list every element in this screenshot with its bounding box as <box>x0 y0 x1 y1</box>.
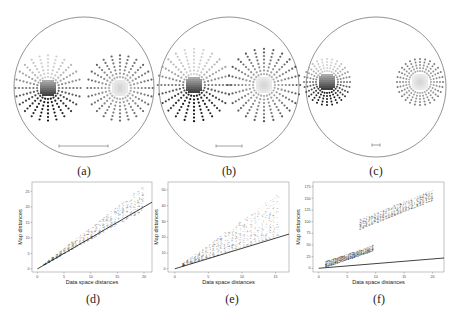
cluster-1 <box>14 54 81 121</box>
svg-text:+: + <box>246 229 248 232</box>
svg-text:+: + <box>86 233 88 236</box>
svg-text:+: + <box>105 215 107 218</box>
y-tick-label: 5 <box>28 252 30 256</box>
svg-text:+: + <box>366 248 368 251</box>
svg-text:+: + <box>336 257 338 260</box>
svg-text:+: + <box>216 245 218 248</box>
y-tick-label: 75 <box>307 231 311 235</box>
svg-text:+: + <box>138 200 140 203</box>
svg-text:+: + <box>273 221 275 224</box>
caption-b: (b) <box>209 164 249 179</box>
x-tick-label: 15 <box>402 275 406 279</box>
caption-c: (c) <box>356 164 396 179</box>
svg-text:+: + <box>138 192 140 195</box>
svg-text:+: + <box>411 207 413 210</box>
caption-e: (e) <box>212 292 252 307</box>
svg-text:+: + <box>250 220 252 223</box>
y-tick-label: 20 <box>26 205 30 209</box>
svg-text:+: + <box>130 204 132 207</box>
svg-text:+: + <box>416 205 418 208</box>
svg-text:+: + <box>276 211 278 214</box>
svg-text:+: + <box>265 234 267 237</box>
scatter-plot-f: ++++++++++++++++++++++++++++++++++++++++… <box>295 182 444 285</box>
svg-text:+: + <box>265 214 267 217</box>
x-tick-label: 10 <box>89 275 93 279</box>
svg-text:+: + <box>117 217 119 220</box>
svg-text:+: + <box>262 213 264 216</box>
x-tick-label: 20 <box>431 275 435 279</box>
svg-text:+: + <box>369 223 371 226</box>
x-tick-label: 0 <box>174 275 176 279</box>
svg-text:+: + <box>251 224 253 227</box>
svg-text:+: + <box>273 233 275 236</box>
svg-text:+: + <box>243 230 245 233</box>
svg-text:+: + <box>407 209 409 212</box>
svg-text:+: + <box>261 234 263 237</box>
svg-text:+: + <box>142 199 144 202</box>
svg-text:+: + <box>138 196 140 199</box>
x-tick-label: 20 <box>142 275 146 279</box>
svg-text:+: + <box>67 244 69 247</box>
svg-text:+: + <box>422 201 424 204</box>
svg-text:+: + <box>140 187 142 190</box>
cluster-1 <box>157 48 232 123</box>
svg-text:+: + <box>109 221 111 224</box>
svg-text:+: + <box>234 226 236 229</box>
svg-text:+: + <box>110 210 112 213</box>
svg-text:+: + <box>351 257 353 260</box>
svg-text:+: + <box>400 203 402 206</box>
svg-text:+: + <box>403 201 405 204</box>
svg-text:+: + <box>110 217 112 220</box>
y-axis-label: Map distances <box>295 209 301 245</box>
svg-text:+: + <box>346 257 348 260</box>
svg-text:+: + <box>118 214 120 217</box>
map-boundary-circle <box>159 17 299 157</box>
svg-text:+: + <box>258 213 260 216</box>
svg-text:+: + <box>276 216 278 219</box>
svg-text:+: + <box>332 261 334 264</box>
figure-canvas: ++++++++++++++++++++++++++++++++++++++++… <box>0 0 453 311</box>
svg-text:+: + <box>364 220 366 223</box>
svg-text:+: + <box>236 229 238 232</box>
x-axis-label: Data space distances <box>202 279 255 285</box>
x-axis-label: Data space distances <box>66 279 119 285</box>
svg-text:+: + <box>260 209 262 212</box>
svg-text:+: + <box>141 194 143 197</box>
svg-text:+: + <box>387 216 389 219</box>
svg-text:+: + <box>260 238 262 241</box>
svg-text:+: + <box>275 201 277 204</box>
svg-text:+: + <box>260 222 262 225</box>
svg-text:+: + <box>374 216 376 219</box>
svg-text:+: + <box>71 244 73 247</box>
svg-text:+: + <box>243 223 245 226</box>
svg-text:+: + <box>190 260 192 263</box>
svg-text:+: + <box>425 198 427 201</box>
y-tick-label: 175 <box>305 185 311 189</box>
svg-text:+: + <box>205 250 207 253</box>
svg-text:+: + <box>261 205 263 208</box>
svg-text:+: + <box>205 254 207 257</box>
svg-text:+: + <box>254 226 256 229</box>
svg-text:+: + <box>114 207 116 210</box>
svg-text:+: + <box>388 208 390 211</box>
svg-text:+: + <box>246 219 248 222</box>
svg-text:+: + <box>357 252 359 255</box>
y-tick-label: 100 <box>305 220 311 224</box>
svg-text:+: + <box>102 224 104 227</box>
map-panel-c <box>303 17 446 157</box>
svg-text:+: + <box>231 239 233 242</box>
svg-text:+: + <box>390 210 392 213</box>
y-tick-label: 0 <box>28 267 30 271</box>
cluster-2 <box>86 54 153 121</box>
y-tick-label: 20 <box>162 235 166 239</box>
svg-text:+: + <box>234 233 236 236</box>
y-tick-label: 25 <box>26 190 30 194</box>
x-tick-label: 15 <box>274 275 278 279</box>
y-tick-label: 15 <box>26 221 30 225</box>
svg-text:+: + <box>410 200 412 203</box>
svg-text:+: + <box>254 222 256 225</box>
svg-text:+: + <box>276 195 278 198</box>
map-panel-a <box>14 17 154 157</box>
svg-text:+: + <box>360 253 362 256</box>
svg-text:+: + <box>398 210 400 213</box>
